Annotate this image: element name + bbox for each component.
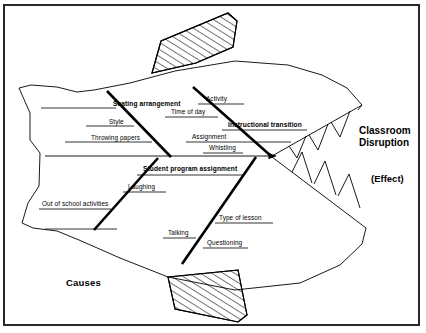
- branch-label-seating-arrangement: Seating arrangement: [113, 101, 181, 108]
- causes-heading: Causes: [66, 278, 101, 288]
- cause-label-type-of-lesson: Type of lesson: [219, 215, 262, 221]
- cause-label-questioning: Questioning: [207, 240, 242, 246]
- cause-label-out-of-school-activities: Out of school activities: [42, 201, 108, 207]
- cause-label-throwing-papers: Throwing papers: [91, 135, 140, 141]
- fishbone-diagram-page: Seating arrangement Style Throwing paper…: [0, 0, 426, 333]
- branch-label-instructional-transition: Instructional transition: [228, 122, 302, 129]
- dorsal-fin-icon: [152, 13, 237, 73]
- fish-body-outline: [19, 61, 366, 290]
- effect-title: Classroom Disruption: [359, 125, 425, 149]
- cause-label-laughing: Laughing: [128, 184, 155, 190]
- cause-label-assignment: Assignment: [192, 134, 226, 140]
- cause-label-style: Style: [109, 119, 124, 125]
- cause-label-whistling: Whistling: [209, 145, 236, 151]
- cause-label-time-of-day: Time of day: [171, 109, 205, 115]
- cause-label-activity: Activity: [206, 96, 227, 102]
- effect-note-label: (Effect): [371, 174, 404, 184]
- ventral-fin-icon: [168, 270, 247, 322]
- branch-label-student-program-assignment: Student program assignment: [143, 166, 237, 173]
- cause-label-talking: Talking: [168, 230, 189, 236]
